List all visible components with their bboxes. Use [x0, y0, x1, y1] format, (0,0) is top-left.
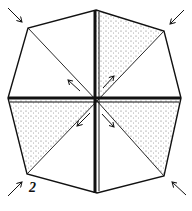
- arrow-top-left-icon: [8, 8, 22, 22]
- arrow-top-right-icon: [170, 10, 184, 24]
- step-number: 2: [29, 180, 36, 196]
- arrow-bottom-left-icon: [8, 182, 22, 196]
- arrow-bottom-right-icon: [172, 182, 186, 195]
